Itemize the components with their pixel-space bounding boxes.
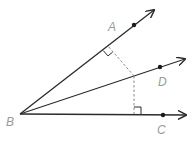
dashed-perpendicular-to-ba (108, 46, 134, 76)
label-b: B (6, 115, 14, 129)
angle-bisector-figure: A B C D (0, 0, 196, 145)
right-angle-marker-ba (103, 51, 112, 56)
label-d: D (158, 75, 167, 89)
point-a (132, 23, 136, 27)
geometry-diagram: A B C D (0, 0, 196, 145)
right-angle-marker-bc (134, 107, 141, 114)
label-a: A (107, 20, 116, 34)
point-d (158, 65, 162, 69)
label-c: C (157, 123, 166, 137)
point-c (161, 113, 165, 117)
